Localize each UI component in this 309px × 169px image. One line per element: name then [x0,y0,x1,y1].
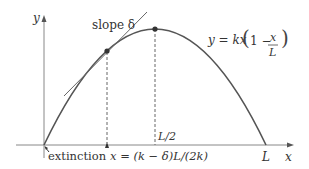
equation-numerator: x [270,32,276,43]
diagram-canvas [0,0,309,169]
diagram: y x slope δ y = kx ( 1 − x L ) L/2 L ext… [0,0,309,169]
x-axis-arrow-icon [287,143,294,148]
x-axis-label: x [285,151,292,163]
x-marker-label: x = (k − δ)L/(2k) [110,151,208,163]
extinction-label: extinction [48,151,106,163]
equation-denominator: L [269,47,276,58]
equation-open-paren: ( [242,28,250,48]
L-label: L [262,151,270,163]
tangent-point [104,48,109,53]
slope-label: slope δ [92,19,135,31]
y-axis-label: y [33,12,40,24]
half-L-label: L/2 [158,131,176,142]
peak-point [152,26,157,31]
equation-lhs: y = kx [208,34,247,46]
y-axis-arrow-icon [42,15,47,22]
equation-close-paren: ) [281,28,289,48]
